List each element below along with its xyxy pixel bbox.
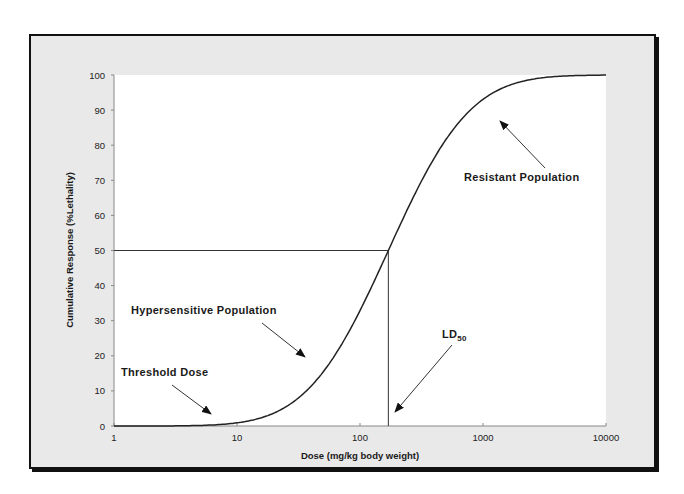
y-axis-title: Cumulative Response (%Lethality) [64,172,75,328]
x-tick-label: 10 [232,432,243,443]
y-tick-label: 100 [89,70,105,81]
y-tick-label: 10 [94,385,105,396]
y-tick-label: 20 [94,350,105,361]
y-tick-label: 40 [94,280,105,291]
ld-text: LD [442,328,457,340]
x-tick-label: 1000 [472,432,493,443]
x-tick-label: 1 [111,432,116,443]
y-tick-label: 60 [94,210,105,221]
x-axis-title: Dose (mg/kg body weight) [301,450,419,461]
y-tick-label: 80 [94,140,105,151]
y-tick-label: 70 [94,175,105,186]
dose-response-chart: 0102030405060708090100 110100100010000 D… [0,0,684,494]
y-tick-label: 0 [100,421,105,432]
ld-subscript: 50 [457,334,467,343]
y-tick-label: 50 [94,245,105,256]
x-tick-label: 10000 [593,432,619,443]
hypersensitive-population-label: Hypersensitive Population [131,304,277,316]
threshold-dose-label: Threshold Dose [121,366,208,378]
y-tick-label: 90 [94,105,105,116]
x-tick-label: 100 [352,432,368,443]
resistant-population-label: Resistant Population [464,171,579,183]
y-tick-label: 30 [94,315,105,326]
